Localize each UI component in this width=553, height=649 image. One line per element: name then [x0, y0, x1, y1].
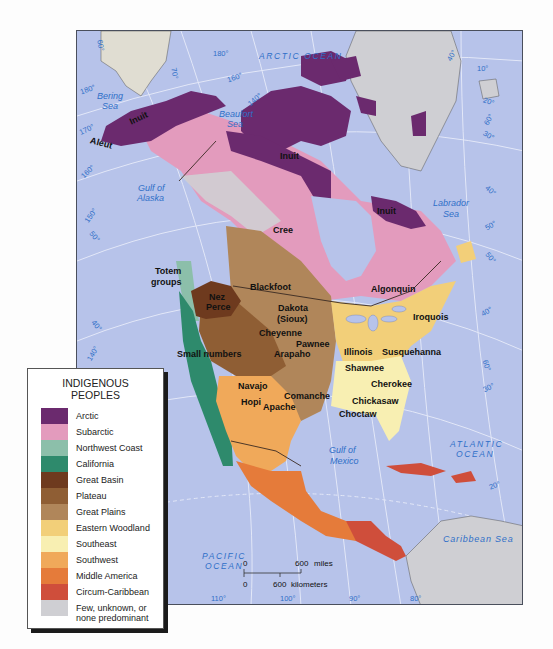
legend-item: Subarctic — [41, 424, 163, 440]
beaufort-sea-label-2: Sea — [227, 119, 243, 129]
gulf-of-alaska-label-2: Alaska — [137, 193, 164, 203]
label-shawnee: Shawnee — [345, 363, 384, 373]
legend-swatch — [41, 472, 68, 488]
degree-label: 90° — [349, 594, 360, 603]
arctic-ocean-label: ARCTIC OCEAN — [259, 51, 342, 61]
label-pawnee: Pawnee — [296, 339, 330, 349]
gulf-of-mexico-label-1: Gulf of — [329, 445, 356, 455]
legend-title-line1: INDIGENOUS — [28, 377, 163, 389]
atlantic-ocean-label-2: OCEAN — [456, 449, 494, 459]
label-comanche: Comanche — [284, 391, 330, 401]
pacific-ocean-label-1: PACIFIC — [202, 551, 246, 561]
legend-item: Great Plains — [41, 504, 163, 520]
scale-km-zero: 0 — [243, 580, 247, 589]
labrador-sea-label-2: Sea — [443, 209, 459, 219]
label-algonquin: Algonquin — [371, 284, 416, 294]
label-hopi: Hopi — [241, 397, 261, 407]
legend-swatch — [41, 568, 68, 584]
labrador-sea-label-1: Labrador — [433, 198, 469, 208]
legend-label: Northwest Coast — [76, 440, 143, 456]
atlantic-ocean-label-1: ATLANTIC — [450, 439, 503, 449]
pacific-ocean-label-2: OCEAN — [205, 561, 243, 571]
legend-label: California — [76, 456, 114, 472]
legend-item: Arctic — [41, 408, 163, 424]
legend-label: Few, unknown, or none predominant — [76, 600, 163, 623]
label-cherokee: Cherokee — [371, 379, 412, 389]
legend-item: Southwest — [41, 552, 163, 568]
legend: INDIGENOUS PEOPLES ArcticSubarcticNorthw… — [27, 368, 164, 629]
degree-label: 80° — [410, 594, 421, 603]
legend-item: Northwest Coast — [41, 440, 163, 456]
legend-label: Middle America — [76, 568, 138, 584]
legend-label: Eastern Woodland — [76, 520, 150, 536]
legend-item: Plateau — [41, 488, 163, 504]
label-inuit-arctic: Inuit — [280, 151, 299, 161]
degree-label: 110° — [211, 594, 226, 603]
legend-swatch — [41, 456, 68, 472]
legend-label: Circum-Caribbean — [76, 584, 149, 600]
label-arapaho: Arapaho — [274, 349, 311, 359]
legend-title-line2: PEOPLES — [28, 389, 163, 401]
label-inuit-east: Inuit — [377, 206, 396, 216]
scale-miles-value: 600 — [295, 559, 308, 568]
legend-swatch — [41, 440, 68, 456]
legend-item: Southeast — [41, 536, 163, 552]
legend-item: California — [41, 456, 163, 472]
label-totem-2: groups — [151, 277, 182, 287]
scale-km-unit: kilometers — [291, 580, 327, 589]
legend-swatch — [41, 504, 68, 520]
gulf-of-alaska-label-1: Gulf of — [138, 183, 165, 193]
degree-label: 180° — [213, 49, 229, 58]
label-choctaw: Choctaw — [339, 409, 377, 419]
legend-item: Middle America — [41, 568, 163, 584]
label-dakota-2: (Sioux) — [277, 314, 308, 324]
legend-swatch — [41, 488, 68, 504]
legend-swatch — [41, 520, 68, 536]
label-navajo: Navajo — [238, 381, 268, 391]
label-illinois: Illinois — [344, 347, 373, 357]
legend-swatch — [41, 600, 68, 616]
degree-label: 10° — [477, 64, 488, 73]
label-iroquois: Iroquois — [413, 312, 449, 322]
label-cree: Cree — [273, 225, 293, 235]
label-cheyenne: Cheyenne — [259, 328, 302, 338]
legend-item: Circum-Caribbean — [41, 584, 163, 600]
degree-label: 100° — [280, 594, 296, 603]
bering-sea-label-2: Sea — [102, 101, 118, 111]
legend-label: Southwest — [76, 552, 118, 568]
legend-swatch — [41, 536, 68, 552]
legend-items: ArcticSubarcticNorthwest CoastCalifornia… — [28, 408, 163, 626]
legend-label: Great Plains — [76, 504, 126, 520]
legend-swatch — [41, 552, 68, 568]
scale-miles-zero: 0 — [243, 559, 247, 568]
label-chickasaw: Chickasaw — [352, 396, 399, 406]
degree-label: 70° — [169, 67, 180, 80]
legend-label: Arctic — [76, 408, 99, 424]
caribbean-sea-label: Caribbean Sea — [443, 534, 513, 544]
scale-miles-unit: miles — [314, 559, 333, 568]
label-nez-1: Nez — [209, 292, 225, 302]
legend-label: Southeast — [76, 536, 117, 552]
beaufort-sea-label-1: Beaufort — [219, 109, 253, 119]
legend-swatch — [41, 424, 68, 440]
bering-sea-label-1: Bering — [97, 91, 123, 101]
legend-item: Eastern Woodland — [41, 520, 163, 536]
legend-label: Great Basin — [76, 472, 124, 488]
legend-item: Great Basin — [41, 472, 163, 488]
legend-swatch — [41, 584, 68, 600]
legend-label: Subarctic — [76, 424, 114, 440]
label-blackfoot: Blackfoot — [250, 282, 291, 292]
label-totem-1: Totem — [155, 266, 181, 276]
label-apache: Apache — [263, 402, 296, 412]
label-dakota-1: Dakota — [278, 303, 308, 313]
degree-label: 60° — [95, 39, 106, 52]
legend-label: Plateau — [76, 488, 107, 504]
legend-title: INDIGENOUS PEOPLES — [28, 377, 163, 401]
legend-swatch — [41, 408, 68, 424]
label-susquehanna: Susquehanna — [382, 347, 441, 357]
gulf-of-mexico-label-2: Mexico — [330, 456, 359, 466]
scale-km-value: 600 — [273, 580, 286, 589]
label-nez-2: Perce — [206, 302, 231, 312]
legend-item: Few, unknown, or none predominant — [41, 600, 163, 626]
label-small-numbers: Small numbers — [177, 349, 242, 359]
